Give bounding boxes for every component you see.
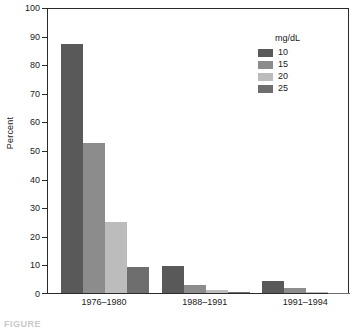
bar <box>127 267 149 293</box>
legend-entry[interactable]: 20 <box>258 71 344 82</box>
bar-group <box>162 9 250 293</box>
x-axis-tick-label: 1976–1980 <box>81 297 126 308</box>
legend-entries: 10152025 <box>258 47 344 94</box>
legend-label: 10 <box>278 48 288 57</box>
bar <box>284 288 306 293</box>
y-axis-tick-label: 20 <box>14 232 40 241</box>
x-axis-tick-label: 1991–1994 <box>283 297 328 308</box>
y-axis-tick-label: 70 <box>14 89 40 98</box>
y-axis-tick-label: 10 <box>14 261 40 270</box>
y-axis-tick-label: 40 <box>14 175 40 184</box>
bar <box>61 44 83 293</box>
legend-entry[interactable]: 10 <box>258 47 344 58</box>
y-axis-tick-label: 80 <box>14 61 40 70</box>
legend-label: 15 <box>278 60 288 69</box>
bar <box>105 222 127 293</box>
y-axis-tick-label: 60 <box>14 118 40 127</box>
y-axis-tick-label: 100 <box>14 4 40 13</box>
y-axis-tick-label: 90 <box>14 32 40 41</box>
bar <box>228 292 250 293</box>
y-axis-tick-label: 50 <box>14 147 40 156</box>
legend-swatch <box>258 61 273 69</box>
legend-swatch <box>258 73 273 81</box>
legend-title: mg/dL <box>275 33 344 43</box>
bar <box>306 292 328 293</box>
bar-group <box>61 9 149 293</box>
legend-swatch <box>258 49 273 57</box>
bar <box>262 281 284 293</box>
bar <box>162 266 184 293</box>
x-axis-tick-labels: 1976–19801988–19911991–1994 <box>47 297 349 311</box>
legend-entry[interactable]: 25 <box>258 83 344 94</box>
y-axis-tick-labels: 0102030405060708090100 <box>14 8 40 294</box>
bar <box>184 285 206 293</box>
y-axis-tick-label: 0 <box>14 290 40 299</box>
y-axis-tick-label: 30 <box>14 204 40 213</box>
legend-label: 25 <box>278 84 288 93</box>
bar <box>83 143 105 293</box>
bar <box>206 290 228 293</box>
figure-caption-sliver: FIGURE <box>4 319 41 327</box>
figure-container: Percent 0102030405060708090100 mg/dL 101… <box>0 0 359 327</box>
legend-swatch <box>258 85 273 93</box>
legend-entry[interactable]: 15 <box>258 59 344 70</box>
x-axis-tick-label: 1988–1991 <box>182 297 227 308</box>
legend-label: 20 <box>278 72 288 81</box>
legend: mg/dL 10152025 <box>258 33 344 95</box>
